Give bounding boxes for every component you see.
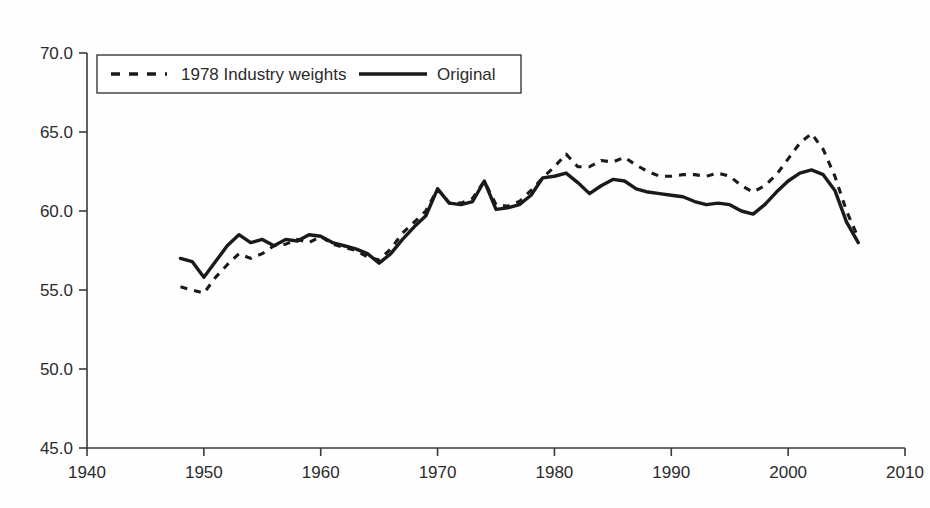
legend-label-industry-weights: 1978 Industry weights — [181, 65, 346, 84]
y-tick-label: 45.0 — [40, 439, 73, 458]
x-tick-label: 2010 — [886, 463, 924, 482]
chart-legend: 1978 Industry weightsOriginal — [97, 55, 521, 93]
x-tick-label: 1940 — [68, 463, 106, 482]
x-tick-label: 2000 — [769, 463, 807, 482]
series-line-original — [180, 170, 858, 277]
line-chart: 45.050.055.060.065.070.0 194019501960197… — [0, 0, 930, 508]
chart-figure: 45.050.055.060.065.070.0 194019501960197… — [0, 0, 930, 508]
y-axis-ticks: 45.050.055.060.065.070.0 — [40, 44, 87, 458]
chart-series-group — [180, 134, 858, 294]
y-tick-label: 60.0 — [40, 202, 73, 221]
y-tick-label: 65.0 — [40, 123, 73, 142]
chart-axes: 45.050.055.060.065.070.0 194019501960197… — [40, 44, 924, 482]
x-tick-label: 1960 — [302, 463, 340, 482]
x-tick-label: 1970 — [419, 463, 457, 482]
y-tick-label: 70.0 — [40, 44, 73, 63]
legend-label-original: Original — [437, 65, 496, 84]
x-tick-label: 1990 — [652, 463, 690, 482]
y-tick-label: 50.0 — [40, 360, 73, 379]
y-tick-label: 55.0 — [40, 281, 73, 300]
x-tick-label: 1980 — [536, 463, 574, 482]
x-tick-label: 1950 — [185, 463, 223, 482]
x-axis-ticks: 19401950196019701980199020002010 — [68, 448, 924, 482]
